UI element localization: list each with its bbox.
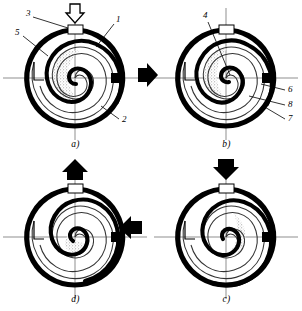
panel-b-caption: b) <box>151 139 302 149</box>
panel-a-caption: a) <box>0 139 151 149</box>
panel-b-drawing <box>151 0 302 156</box>
right-tab-b <box>262 73 271 83</box>
scroll-compressor-figure: 3 1 5 2 a) <box>0 0 302 311</box>
panel-c-drawing <box>151 155 302 311</box>
callout-label-3: 3 <box>26 9 31 18</box>
flow-arrow-a-to-b <box>136 62 160 88</box>
callout-label-8: 8 <box>288 100 293 109</box>
callout-label-1: 1 <box>116 15 121 24</box>
discharge-port-d <box>68 184 83 193</box>
callout-label-2: 2 <box>122 115 127 124</box>
left-hook-c <box>185 221 195 239</box>
callout-label-4: 4 <box>203 11 208 20</box>
left-hook-b <box>185 62 195 80</box>
discharge-port-b <box>219 25 234 34</box>
panel-a-drawing <box>0 0 151 156</box>
flow-arrow-c-to-d <box>118 216 144 240</box>
callout-label-6: 6 <box>288 85 293 94</box>
right-tab-a <box>111 73 120 83</box>
discharge-arrow-d <box>62 159 88 180</box>
panel-c-caption: c) <box>151 294 302 304</box>
discharge-port-c <box>219 184 234 193</box>
compression-arrow-c <box>213 159 239 180</box>
right-tab-c <box>262 232 271 242</box>
panel-b: 4 6 8 7 b) <box>151 0 302 156</box>
panel-a: 3 1 5 2 a) <box>0 0 151 156</box>
suction-arrow-a <box>66 4 84 23</box>
left-hook-d <box>34 221 44 239</box>
left-hook-a <box>34 62 44 80</box>
callout-label-7: 7 <box>288 114 293 123</box>
fixed-scroll-spiral-c <box>183 206 264 278</box>
panel-c: c) <box>151 155 302 311</box>
callout-label-5: 5 <box>15 28 20 37</box>
panel-d-caption: d) <box>0 294 151 304</box>
discharge-port-a <box>68 25 83 34</box>
